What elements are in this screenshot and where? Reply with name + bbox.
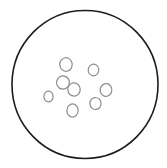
colony-circle-7 (89, 97, 101, 110)
colony-circle-2 (88, 64, 100, 76)
colony-circle-4 (67, 82, 80, 96)
figure-root (0, 0, 167, 168)
colony-circle-5 (44, 91, 53, 102)
colony-circle-8 (67, 104, 79, 118)
dish-boundary-circle (12, 11, 158, 159)
line-drawing-canvas (0, 0, 167, 168)
